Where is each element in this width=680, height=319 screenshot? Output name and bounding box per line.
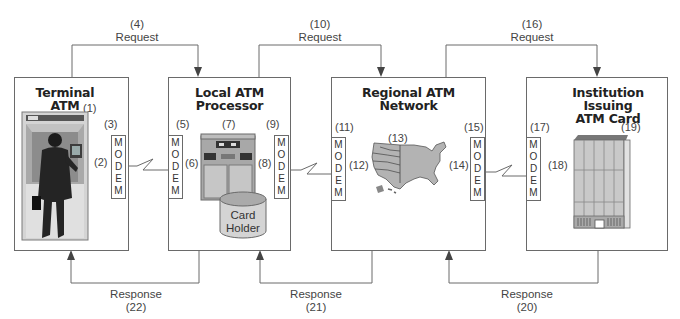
response-arrow-22	[71, 250, 199, 283]
response-label-22: Response (22)	[91, 288, 181, 314]
arrow-head-up-icon	[67, 250, 75, 260]
telecom-link-2	[290, 163, 331, 174]
link-ref-label: (18)	[548, 160, 568, 171]
atm-machine-icon	[20, 110, 92, 245]
modem-box-3: MODEM	[111, 135, 126, 199]
response-arrow-20	[449, 250, 598, 283]
telecom-link-3	[485, 165, 526, 176]
office-building-icon	[572, 134, 632, 230]
request-label-16: (16) Request	[487, 18, 577, 44]
modem-ref-label: (3)	[104, 119, 117, 130]
modem-ref-label: (9)	[266, 119, 279, 130]
modem-box-5: MODEM	[168, 135, 183, 199]
link-ref-label: (6)	[185, 158, 198, 169]
response-label-20: Response (20)	[482, 288, 572, 314]
arrow-head-down-icon	[593, 67, 601, 77]
request-label-10: (10) Request	[275, 18, 365, 44]
response-arrow-21	[260, 250, 372, 283]
link-ref-label: (2)	[94, 157, 107, 168]
link-ref-label: (12)	[349, 160, 369, 171]
node-title: Terminal ATM	[15, 86, 115, 112]
node-title: Local ATM Processor	[169, 86, 290, 112]
request-label-4: (4) Request	[92, 18, 182, 44]
arrow-head-up-icon	[256, 250, 264, 260]
ref-label: (7)	[222, 119, 235, 130]
card-holder-label: Card Holder	[218, 209, 268, 235]
link-ref-label: (14)	[449, 160, 469, 171]
modem-box-17: MODEM	[526, 137, 541, 201]
arrow-head-up-icon	[445, 250, 453, 260]
request-arrow-4	[72, 45, 198, 77]
response-label-21: Response (21)	[271, 288, 361, 314]
modem-ref-label: (15)	[464, 122, 484, 133]
us-map-icon	[370, 139, 450, 195]
modem-box-9: MODEM	[274, 135, 289, 199]
telecom-link-1	[126, 159, 168, 170]
ref-label: (19)	[621, 122, 641, 133]
request-arrow-16	[446, 45, 597, 77]
arrow-head-down-icon	[194, 67, 202, 77]
node-title: Institution Issuing ATM Card	[547, 86, 669, 125]
modem-ref-label: (5)	[176, 119, 189, 130]
modem-box-15: MODEM	[470, 137, 485, 201]
modem-ref-label: (11)	[335, 122, 354, 133]
link-ref-label: (8)	[258, 158, 271, 169]
modem-ref-label: (17)	[530, 122, 550, 133]
arrow-head-down-icon	[377, 67, 385, 77]
modem-box-11: MODEM	[331, 137, 346, 201]
node-title: Regional ATM Network	[332, 86, 485, 112]
request-arrow-10	[259, 45, 381, 77]
